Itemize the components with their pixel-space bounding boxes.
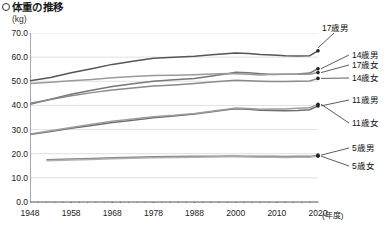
y-axis-tick: 70.0 (0, 28, 28, 38)
y-axis-tick: 60.0 (0, 52, 28, 62)
series-label-14歳女: 14歳女 (352, 73, 379, 83)
series-label-5歳女: 5歳女 (352, 161, 375, 171)
series-label-17歳男: 17歳男 (322, 23, 349, 33)
x-axis-tick: 1958 (62, 208, 81, 218)
y-axis-unit-label: (kg) (12, 14, 27, 24)
x-axis-tick: 1948 (21, 208, 40, 218)
y-axis-tick: 10.0 (0, 173, 28, 183)
callout-leader (321, 104, 349, 123)
line-chart-plot (30, 33, 318, 202)
x-axis-unit-label: (年度) (322, 209, 343, 220)
y-axis-tick: 0.0 (0, 197, 28, 207)
callout-leader (321, 55, 349, 69)
series-label-11歳男: 11歳男 (352, 95, 379, 105)
callout-leader (318, 33, 334, 48)
y-axis-tick: 40.0 (0, 100, 28, 110)
x-axis-tick: 1968 (103, 208, 122, 218)
circle-outline-icon (2, 3, 10, 11)
chart-title-row: 体重の推移 (2, 1, 63, 13)
y-axis-tick: 20.0 (0, 149, 28, 159)
chart-page: 体重の推移 (kg) 70.060.050.040.030.020.010.00… (0, 0, 389, 232)
callout-leader (321, 156, 349, 166)
series-label-17歳女: 17歳女 (352, 60, 379, 70)
page-title: 体重の推移 (12, 1, 63, 13)
y-axis-tick: 50.0 (0, 76, 28, 86)
y-axis-tick: 30.0 (0, 125, 28, 135)
series-line-17歳男 (30, 51, 318, 81)
x-axis-tick: 2000 (226, 208, 245, 218)
callout-leader (321, 148, 349, 155)
x-axis-tick: 1978 (144, 208, 163, 218)
series-label-14歳男: 14歳男 (352, 50, 379, 60)
series-label-5歳男: 5歳男 (352, 143, 375, 153)
callout-leader (321, 65, 349, 73)
series-label-11歳女: 11歳女 (352, 118, 379, 128)
x-axis-tick: 2010 (267, 208, 286, 218)
callout-leader (321, 100, 349, 106)
series-line-14歳女 (30, 78, 318, 103)
series-line-11歳男 (30, 106, 318, 134)
x-axis-tick: 1988 (185, 208, 204, 218)
